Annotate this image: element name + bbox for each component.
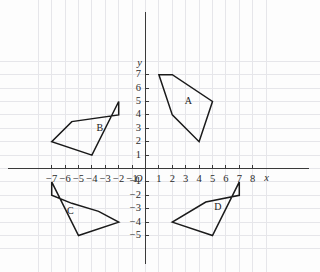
y-tick-label: −5 xyxy=(130,229,141,240)
x-tick-label: 7 xyxy=(237,173,242,184)
x-tick-label: 3 xyxy=(183,173,188,184)
x-tick-label: −2 xyxy=(113,173,124,184)
y-axis-label: y xyxy=(136,57,142,68)
x-tick-label: −4 xyxy=(86,173,98,184)
x-tick-label: −7 xyxy=(46,173,57,184)
y-tick-label: 3 xyxy=(136,122,141,133)
coordinate-plane-svg: −7−6−5−4−3−2−1123456787654321−1−2−3−4−5O… xyxy=(0,0,320,272)
y-tick-label: 5 xyxy=(136,95,141,106)
y-tick-label: 2 xyxy=(136,135,141,146)
y-tick-label: 4 xyxy=(136,108,142,119)
x-tick-label: 6 xyxy=(223,173,228,184)
plot-background xyxy=(0,0,320,272)
x-axis-label: x xyxy=(263,172,269,183)
y-tick-label: 6 xyxy=(136,82,141,93)
y-tick-label: −3 xyxy=(130,202,141,213)
shape-label-a: A xyxy=(185,95,193,106)
x-tick-label: −3 xyxy=(100,173,111,184)
origin-label: O xyxy=(135,173,143,184)
shape-label-b: B xyxy=(97,122,104,133)
x-tick-label: 4 xyxy=(196,173,202,184)
y-tick-label: −4 xyxy=(130,216,142,227)
x-tick-label: 5 xyxy=(210,173,215,184)
y-tick-label: −2 xyxy=(130,189,141,200)
y-tick-label: 7 xyxy=(136,68,141,79)
x-tick-label: 1 xyxy=(156,173,161,184)
x-tick-label: 8 xyxy=(250,173,255,184)
y-tick-label: 1 xyxy=(136,149,141,160)
x-tick-label: −6 xyxy=(60,173,71,184)
shape-label-d: D xyxy=(214,201,221,212)
x-tick-label: −5 xyxy=(73,173,84,184)
shape-label-c: C xyxy=(67,205,74,216)
coordinate-plane-figure: −7−6−5−4−3−2−1123456787654321−1−2−3−4−5O… xyxy=(0,0,320,272)
x-tick-label: 2 xyxy=(170,173,175,184)
